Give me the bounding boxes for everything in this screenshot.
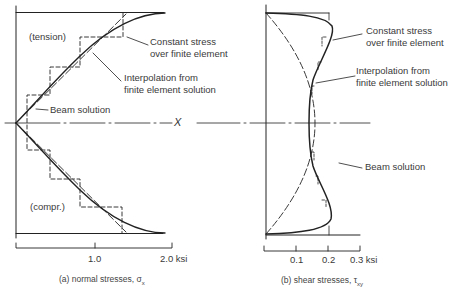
left-annotation-constant-2: over finite element bbox=[150, 48, 228, 60]
right-caption: (b) shear stresses, τxy bbox=[281, 275, 363, 287]
right-annotation-interp-2: finite element solution bbox=[356, 77, 448, 89]
right-fe-interpolation bbox=[266, 13, 333, 234]
right-tick-1: 0.1 bbox=[290, 254, 303, 265]
left-tick-2: 2.0 ksi bbox=[160, 253, 187, 264]
left-annotation-beam: Beam solution bbox=[50, 104, 110, 116]
right-annotation-constant-1: Constant stress bbox=[366, 25, 432, 37]
left-leader-constant bbox=[127, 37, 148, 45]
compression-label: (compr.) bbox=[30, 201, 65, 213]
right-scale-bar bbox=[264, 246, 360, 251]
left-leader-interp bbox=[93, 53, 121, 81]
left-scale-bar bbox=[16, 243, 172, 248]
tension-label: (tension) bbox=[29, 31, 66, 43]
left-annotation-constant-1: Constant stress bbox=[150, 36, 216, 48]
right-annotation-constant-2: over finite element bbox=[366, 37, 444, 49]
right-annotation-beam: Beam solution bbox=[365, 161, 425, 173]
right-leader-beam bbox=[339, 163, 362, 168]
left-tick-1: 1.0 bbox=[88, 253, 101, 264]
right-constant-stress-steps bbox=[312, 37, 326, 208]
left-leader-beam bbox=[36, 109, 48, 110]
right-annotation-interp-1: Interpolation from bbox=[356, 65, 430, 77]
left-fe-interpolation-bottom bbox=[16, 123, 165, 233]
right-tick-2: 0.2 bbox=[322, 254, 335, 265]
right-tick-3: 0.3 ksi bbox=[350, 254, 377, 265]
shear-stress-plot bbox=[264, 5, 362, 251]
x-axis-symbol: X bbox=[174, 116, 181, 128]
left-annotation-interp-2: finite element solution bbox=[124, 84, 216, 96]
left-annotation-interp-1: Interpolation from bbox=[124, 72, 198, 84]
left-caption: (a) normal stresses, σx bbox=[59, 274, 145, 286]
right-leader-interp bbox=[316, 76, 355, 83]
right-leader-constant bbox=[333, 34, 362, 40]
right-beam-solution bbox=[266, 13, 315, 234]
